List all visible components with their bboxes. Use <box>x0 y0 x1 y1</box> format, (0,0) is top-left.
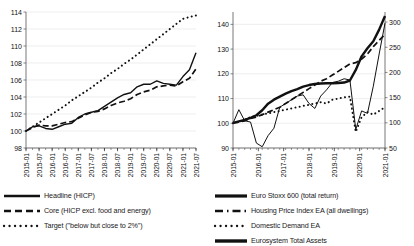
legend-key-solid-icon <box>0 191 44 201</box>
svg-text:2021-01: 2021-01 <box>382 153 389 178</box>
legend-key-thin-solid-icon <box>207 191 251 201</box>
legend-item: Domestic Demand EA <box>207 218 414 233</box>
assets-chart-plot: 90100110120130140501001502002503002015-0… <box>207 0 414 185</box>
legend-key-thick-solid-icon <box>207 236 251 246</box>
svg-text:50: 50 <box>389 145 397 152</box>
chart-panel-assets: 90100110120130140501001502002503002015-0… <box>207 0 414 246</box>
svg-text:104: 104 <box>10 94 22 101</box>
svg-text:106: 106 <box>10 77 22 84</box>
legend-label: Target ("below but close to 2%") <box>44 221 143 230</box>
legend-label: Core (HICP excl. food and energy) <box>44 206 151 215</box>
svg-text:100: 100 <box>217 120 229 127</box>
assets-chart-legend: Euro Stoxx 600 (total return) Housing Pr… <box>207 188 414 246</box>
svg-text:2020-01: 2020-01 <box>153 153 160 178</box>
svg-text:110: 110 <box>218 95 229 102</box>
legend-label: Housing Price Index EA (all dwellings) <box>251 206 368 215</box>
svg-text:2017-07: 2017-07 <box>88 153 95 178</box>
svg-text:2015-07: 2015-07 <box>36 153 43 178</box>
legend-item: Target ("below but close to 2%") <box>0 218 207 233</box>
svg-text:300: 300 <box>389 19 401 26</box>
svg-text:2020-01: 2020-01 <box>356 153 363 178</box>
svg-text:2016-01: 2016-01 <box>49 153 56 178</box>
legend-item: Core (HICP excl. food and energy) <box>0 203 207 218</box>
legend-item: Eurosystem Total Assets <box>207 233 414 246</box>
svg-text:130: 130 <box>217 46 229 53</box>
svg-text:2015-01: 2015-01 <box>23 153 30 178</box>
svg-text:2019-07: 2019-07 <box>140 153 147 178</box>
svg-text:150: 150 <box>389 94 401 101</box>
inflation-chart-legend: Headline (HICP) Core (HICP excl. food an… <box>0 188 207 233</box>
legend-label: Headline (HICP) <box>44 191 95 200</box>
svg-text:98: 98 <box>14 145 22 152</box>
svg-text:2017-01: 2017-01 <box>75 153 82 178</box>
legend-label: Eurosystem Total Assets <box>251 236 327 245</box>
svg-text:120: 120 <box>217 70 229 77</box>
svg-text:2016-07: 2016-07 <box>62 153 69 178</box>
svg-text:2021-01: 2021-01 <box>180 153 187 178</box>
svg-text:108: 108 <box>10 60 22 67</box>
legend-label: Domestic Demand EA <box>251 221 320 230</box>
svg-text:2018-01: 2018-01 <box>101 153 108 178</box>
svg-text:90: 90 <box>221 145 229 152</box>
legend-key-dashed-icon <box>207 206 251 216</box>
svg-text:2018-07: 2018-07 <box>114 153 121 178</box>
svg-text:2019-01: 2019-01 <box>127 153 134 178</box>
legend-item: Headline (HICP) <box>0 188 207 203</box>
svg-text:2018-01: 2018-01 <box>306 153 313 178</box>
legend-key-dotted-icon <box>0 221 44 231</box>
svg-text:2021-07: 2021-07 <box>193 153 200 178</box>
svg-text:112: 112 <box>11 26 22 33</box>
svg-text:250: 250 <box>389 44 401 51</box>
svg-text:200: 200 <box>389 69 401 76</box>
inflation-chart-plot: 981001021041061081101121142015-012015-07… <box>0 0 207 185</box>
svg-text:2016-01: 2016-01 <box>255 153 262 178</box>
svg-text:2017-01: 2017-01 <box>280 153 287 178</box>
svg-text:100: 100 <box>10 128 22 135</box>
legend-item: Euro Stoxx 600 (total return) <box>207 188 414 203</box>
svg-text:2020-07: 2020-07 <box>166 153 173 178</box>
svg-text:110: 110 <box>11 43 22 50</box>
legend-key-dotted-icon <box>207 221 251 231</box>
legend-item: Housing Price Index EA (all dwellings) <box>207 203 414 218</box>
svg-text:102: 102 <box>10 111 22 118</box>
svg-text:2015-01: 2015-01 <box>230 153 237 178</box>
svg-text:140: 140 <box>217 21 229 28</box>
legend-key-dashed-icon <box>0 206 44 216</box>
legend-label: Euro Stoxx 600 (total return) <box>251 191 338 200</box>
dual-chart-figure: 981001021041061081101121142015-012015-07… <box>0 0 414 246</box>
svg-text:114: 114 <box>11 9 22 16</box>
svg-text:100: 100 <box>389 119 401 126</box>
svg-text:2019-01: 2019-01 <box>331 153 338 178</box>
chart-panel-inflation: 981001021041061081101121142015-012015-07… <box>0 0 207 246</box>
